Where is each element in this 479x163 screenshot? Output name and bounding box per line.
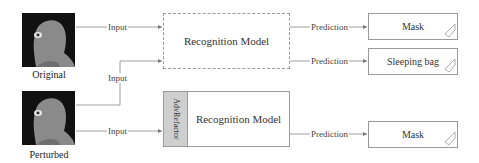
- original-face-image: [22, 13, 75, 67]
- page-curl-icon: [444, 59, 456, 73]
- input-label-perturbed-bottom: Input: [107, 126, 128, 136]
- prediction-label-1: Prediction: [310, 22, 349, 32]
- prediction-label-2: Prediction: [310, 56, 349, 66]
- page-curl-icon: [444, 24, 456, 38]
- page-curl-icon: [444, 132, 456, 146]
- output-box-2: Sleeping bag: [368, 48, 458, 75]
- edge-perturbed-to-model: [76, 61, 162, 105]
- face-icon: [22, 13, 75, 67]
- perturbed-face-image: [22, 91, 75, 145]
- advrefactor-block: AdvRefactor: [164, 92, 188, 146]
- input-label-perturbed-top: Input: [107, 73, 128, 83]
- advrefactor-label: AdvRefactor: [171, 98, 180, 139]
- recognition-model-bottom-label: Recognition Model: [188, 113, 289, 125]
- output-label-2: Sleeping bag: [387, 56, 439, 67]
- input-label-original: Input: [107, 22, 128, 32]
- output-box-1: Mask: [368, 13, 458, 40]
- recognition-model-bottom: AdvRefactor Recognition Model: [163, 91, 290, 147]
- prediction-label-3: Prediction: [310, 129, 349, 139]
- perturbed-caption: Perturbed: [9, 149, 89, 160]
- recognition-model-top: Recognition Model: [163, 13, 290, 69]
- original-caption: Original: [9, 69, 89, 80]
- output-box-3: Mask: [368, 121, 458, 148]
- recognition-model-top-label: Recognition Model: [184, 35, 269, 47]
- output-label-1: Mask: [402, 21, 424, 32]
- face-icon: [22, 91, 75, 145]
- output-label-3: Mask: [402, 129, 424, 140]
